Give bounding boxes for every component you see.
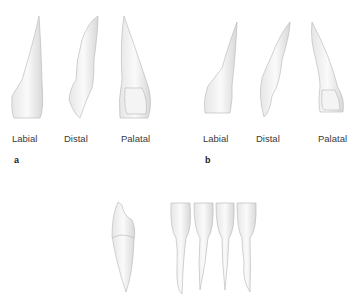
panel-a-labial-label: Labial	[12, 133, 37, 144]
panel-b-labial-tooth	[204, 22, 237, 113]
panel-a-palatal-label: Palatal	[121, 133, 150, 144]
panel-a-letter: a	[14, 155, 19, 165]
bottom-tooth-row	[171, 203, 256, 294]
panel-a-distal-tooth	[69, 16, 98, 118]
panel-b-labial-label: Labial	[203, 133, 228, 144]
panel-a-labial-tooth	[12, 16, 43, 118]
tooth-illustrations	[0, 0, 359, 305]
panel-b-palatal-label: Palatal	[318, 133, 347, 144]
panel-b-distal-label: Distal	[256, 133, 280, 144]
panel-a-palatal-tooth	[119, 16, 150, 118]
panel-b-distal-tooth	[260, 22, 290, 117]
bottom-lateral-tooth	[112, 202, 135, 292]
panel-b-letter: b	[205, 155, 211, 165]
panel-a-distal-label: Distal	[64, 133, 88, 144]
panel-b-palatal-tooth	[312, 22, 344, 112]
